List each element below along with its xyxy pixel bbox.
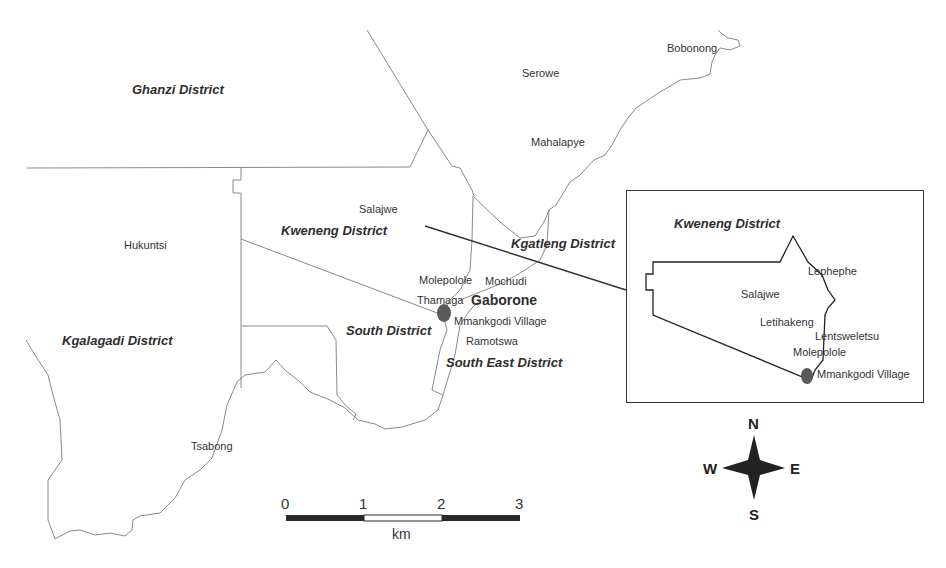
- inset-label-kweneng-district: Kweneng District: [674, 217, 780, 230]
- border-south-river: [26, 340, 443, 539]
- label-kgalagadi-district: Kgalagadi District: [62, 334, 173, 347]
- label-ramotswa: Ramotswa: [466, 336, 518, 347]
- compass-star-icon: [722, 435, 785, 500]
- compass-west: W: [703, 461, 717, 476]
- label-bobonong: Bobonong: [667, 43, 717, 54]
- label-ghanzi-district: Ghanzi District: [132, 83, 224, 96]
- boundary-kweneng-south: [241, 239, 440, 314]
- scale-bar-segment-3: [442, 515, 520, 521]
- boundary-central-west: [367, 30, 474, 196]
- scale-bar-segment-2: [364, 515, 442, 521]
- boundary-ghanzi-south: [27, 130, 428, 168]
- scale-tick-2: 2: [437, 496, 445, 511]
- label-gaborone: Gaborone: [471, 293, 537, 307]
- label-mochudi: Mochudi: [485, 276, 527, 287]
- inset-label-mmankgodi-village: Mmankgodi Village: [817, 369, 910, 380]
- boundary-kweneng-west: [233, 168, 241, 388]
- compass-north: N: [748, 416, 759, 431]
- label-south-district: South District: [346, 324, 431, 337]
- scale-bar-segment-1: [286, 515, 364, 521]
- scale-tick-1: 1: [359, 496, 367, 511]
- label-kgatleng-district: Kgatleng District: [511, 237, 615, 250]
- study-site-marker: [437, 304, 451, 322]
- scale-unit-label: km: [392, 527, 411, 541]
- compass-south: S: [749, 507, 759, 522]
- label-thamaga: Thamaga: [417, 295, 463, 306]
- inset-label-lentsweletsu: Lentsweletsu: [815, 331, 879, 342]
- label-kweneng-district: Kweneng District: [281, 224, 387, 237]
- label-serowe: Serowe: [522, 68, 559, 79]
- scale-tick-0: 0: [281, 496, 289, 511]
- inset-label-salajwe: Salajwe: [741, 289, 780, 300]
- label-salajwe: Salajwe: [359, 204, 398, 215]
- label-molepolole: Molepolole: [419, 275, 472, 286]
- label-mahalapye: Mahalapye: [531, 137, 585, 148]
- label-hukuntsi: Hukuntsi: [124, 240, 167, 251]
- inset-label-lephephe: Lephephe: [808, 266, 857, 277]
- label-mmankgodi-village: Mmankgodi Village: [454, 316, 547, 327]
- label-south-east-district: South East District: [446, 356, 562, 369]
- inset-study-site-marker: [801, 368, 813, 384]
- scale-tick-3: 3: [515, 496, 523, 511]
- compass-east: E: [790, 461, 800, 476]
- inset-label-letihakeng: Letihakeng: [760, 317, 814, 328]
- border-east-river: [549, 30, 740, 210]
- inset-label-molepolole: Molepolole: [793, 347, 846, 358]
- label-tsabong: Tsabong: [191, 441, 233, 452]
